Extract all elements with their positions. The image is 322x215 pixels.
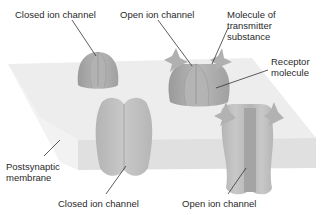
label-open-ion-channel-bottom: Open ion channel — [182, 198, 256, 209]
diagram-canvas: Closed ion channel Open ion channel Mole… — [0, 0, 322, 215]
label-closed-ion-channel-top: Closed ion channel — [15, 9, 96, 20]
leader-closed-top — [72, 20, 96, 56]
label-closed-ion-channel-bottom: Closed ion channel — [58, 198, 139, 209]
label-open-ion-channel-top: Open ion channel — [120, 9, 194, 20]
label-receptor-molecule: Receptor molecule — [271, 56, 310, 78]
open-ion-channel-top — [164, 48, 232, 107]
closed-ion-channel-top — [78, 52, 119, 89]
label-postsynaptic-membrane: Postsynaptic membrane — [6, 161, 60, 183]
closed-ion-channel-bottom — [96, 98, 153, 176]
label-transmitter-molecule: Molecule of transmitter substance — [227, 9, 276, 42]
